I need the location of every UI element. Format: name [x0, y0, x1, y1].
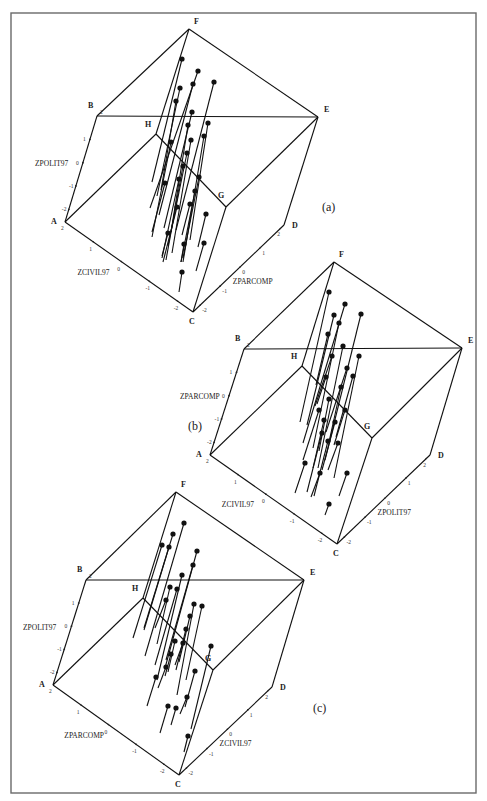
panel-b: ABCDEFGH210-1-2210-1-2-2-1012ZPARCOMPZCI… [180, 250, 473, 558]
tick-mark [260, 247, 262, 249]
tick-mark [89, 138, 91, 140]
figure-3d-scatter-panels: ABCDEFGH210-1-2210-1-2-2-1012ZPOLIT97ZCI… [0, 0, 487, 801]
tick-mark [199, 304, 201, 306]
data-point [344, 365, 349, 370]
vertical-tick-label: 0 [76, 160, 79, 166]
data-point [180, 640, 185, 645]
tick-mark [75, 185, 77, 187]
right-depth-axis-title: ZCIVIL97 [220, 739, 252, 748]
panel-a: ABCDEFGH210-1-2210-1-2-2-1012ZPOLIT97ZCI… [35, 17, 335, 326]
left-depth-tick-label: -1 [290, 518, 295, 524]
left-depth-tick-label: -1 [132, 748, 137, 754]
data-stem [147, 677, 156, 706]
data-point [189, 109, 194, 114]
right-depth-tick-label: -2 [346, 539, 351, 545]
data-stem [160, 706, 168, 733]
left-depth-tick-label: 0 [104, 729, 107, 735]
data-point [316, 407, 321, 412]
data-point [344, 470, 349, 475]
data-point [326, 289, 331, 294]
data-point [205, 120, 210, 125]
vertex-label-C: C [333, 549, 339, 558]
data-point [188, 137, 193, 142]
data-point [176, 176, 181, 181]
data-point [195, 68, 200, 73]
tick-mark [293, 513, 295, 515]
vertex-label-G: G [364, 422, 370, 431]
left-depth-tick-label: 0 [262, 498, 265, 504]
vertical-tick-label: 2 [247, 342, 250, 348]
tick-mark [227, 728, 229, 730]
data-point [331, 312, 336, 317]
vertex-label-B: B [235, 334, 241, 343]
data-point [187, 201, 192, 206]
data-point [179, 572, 184, 577]
tick-mark [56, 672, 58, 674]
cube-edge-HG [143, 598, 213, 670]
data-point [317, 470, 322, 475]
data-point [340, 343, 345, 348]
data-stem [171, 708, 176, 725]
right-depth-tick-label: 0 [229, 731, 232, 737]
tick-mark [71, 625, 73, 627]
vertical-tick-label: 1 [72, 600, 75, 606]
vertex-label-H: H [145, 120, 152, 129]
data-stem [314, 441, 328, 496]
data-stem [322, 422, 335, 470]
data-point [203, 211, 208, 216]
tick-mark [221, 418, 223, 420]
data-point [184, 150, 189, 155]
data-stem [196, 243, 204, 271]
vertex-label-E: E [468, 336, 473, 345]
left-depth-axis-title: ZCIVIL97 [77, 268, 109, 277]
data-point [159, 542, 164, 547]
vertical-tick-label: -1 [69, 183, 74, 189]
vertex-label-A: A [196, 450, 202, 459]
tick-mark [68, 208, 70, 210]
panel-label: (c) [313, 701, 326, 715]
data-point [358, 311, 363, 316]
vertex-label-E: E [310, 568, 315, 577]
right-depth-tick-label: 1 [262, 250, 265, 256]
data-point [332, 419, 337, 424]
data-stem [339, 473, 347, 496]
data-point [187, 613, 192, 618]
data-point [335, 440, 340, 445]
vertex-label-D: D [292, 221, 298, 230]
data-point [180, 163, 185, 168]
vertex-label-A: A [51, 217, 57, 226]
right-depth-tick-label: 2 [265, 694, 268, 700]
data-point [325, 438, 330, 443]
data-point [201, 133, 206, 138]
tick-mark [321, 533, 323, 535]
data-point [190, 81, 195, 86]
right-depth-tick-label: 2 [423, 462, 426, 468]
vertex-label-F: F [339, 250, 344, 259]
tick-mark [80, 704, 82, 706]
vertex-label-F: F [194, 17, 199, 26]
left-depth-tick-label: -2 [160, 768, 165, 774]
vertical-axis-title: ZPOLIT97 [23, 623, 57, 632]
data-point [201, 240, 206, 245]
data-point [302, 460, 307, 465]
data-point [177, 85, 182, 90]
right-depth-tick-label: 0 [242, 269, 245, 275]
tick-mark [63, 648, 65, 650]
tick-mark [385, 497, 387, 499]
data-point [168, 651, 173, 656]
data-point [172, 638, 177, 643]
right-depth-tick-label: 1 [408, 480, 411, 486]
panel-label: (b) [188, 419, 202, 433]
data-point [336, 320, 341, 325]
data-point [162, 180, 167, 185]
tick-mark [220, 285, 222, 287]
vertical-tick-label: 2 [100, 109, 103, 115]
data-point [192, 668, 197, 673]
vertex-label-B: B [88, 101, 94, 110]
tick-mark [135, 744, 137, 746]
cube-edge-FE [334, 262, 462, 348]
left-depth-tick-label: 1 [234, 479, 237, 485]
left-depth-tick-label: -2 [174, 305, 179, 311]
tick-mark [344, 536, 346, 538]
tick-mark [177, 300, 179, 302]
